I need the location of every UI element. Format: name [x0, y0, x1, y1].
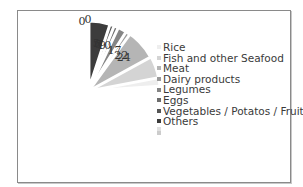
legend-item: [157, 131, 303, 135]
legend-item: Eggs: [157, 95, 303, 106]
legend-swatch-icon: [157, 56, 161, 60]
legend-swatch-icon: [157, 119, 161, 123]
legend-swatch-icon: [157, 66, 161, 70]
legend-swatch-icon: [157, 98, 161, 102]
chart-legend: RiceFish and other SeafoodMeatDairy prod…: [157, 42, 303, 135]
legend-swatch-icon: [157, 109, 161, 113]
data-label: 0: [85, 13, 92, 26]
legend-label: Eggs: [163, 95, 188, 106]
legend-swatch-icon: [157, 88, 161, 92]
data-label: 5: [93, 37, 100, 50]
legend-label: Others: [163, 116, 198, 127]
legend-swatch-icon: [157, 131, 161, 135]
legend-item: Rice: [157, 42, 303, 53]
legend-item: Others: [157, 116, 303, 127]
legend-label: Rice: [163, 42, 185, 53]
legend-swatch-icon: [157, 77, 161, 81]
legend-swatch-icon: [157, 45, 161, 49]
